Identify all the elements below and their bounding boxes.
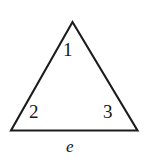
triangle-figure: 1 2 3 e	[0, 0, 149, 162]
angle-label-1: 1	[63, 40, 73, 59]
angle-label-2: 2	[29, 102, 39, 121]
side-label-e: e	[66, 138, 74, 155]
angle-label-3: 3	[103, 102, 113, 121]
triangle-shape	[0, 0, 149, 162]
